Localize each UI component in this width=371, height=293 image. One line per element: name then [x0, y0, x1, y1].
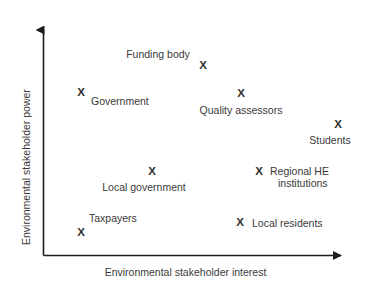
marker-quality-assessors: X: [237, 88, 245, 100]
label-funding-body: Funding body: [126, 48, 190, 60]
label-local-residents: Local residents: [252, 217, 323, 229]
plot-area: X Funding body X Government X Quality as…: [0, 0, 371, 293]
label-regional-he-institutions-line1: Regional HE: [270, 165, 329, 177]
marker-regional-he-institutions: X: [255, 166, 263, 178]
label-local-government: Local government: [102, 181, 185, 193]
label-government: Government: [91, 95, 149, 107]
stakeholder-power-interest-chart: X Funding body X Government X Quality as…: [0, 0, 371, 293]
label-regional-he-institutions-line2: institutions: [278, 177, 328, 189]
y-axis-title: Environmental stakeholder power: [20, 89, 32, 245]
x-axis-title: Environmental stakeholder interest: [105, 266, 267, 278]
marker-funding-body: X: [199, 60, 207, 72]
label-taxpayers: Taxpayers: [89, 212, 137, 224]
marker-taxpayers: X: [77, 227, 85, 239]
label-quality-assessors: Quality assessors: [200, 104, 283, 116]
label-students: Students: [309, 134, 350, 146]
marker-local-residents: X: [236, 217, 244, 229]
marker-government: X: [77, 87, 85, 99]
marker-students: X: [334, 119, 342, 131]
marker-local-government: X: [148, 166, 156, 178]
